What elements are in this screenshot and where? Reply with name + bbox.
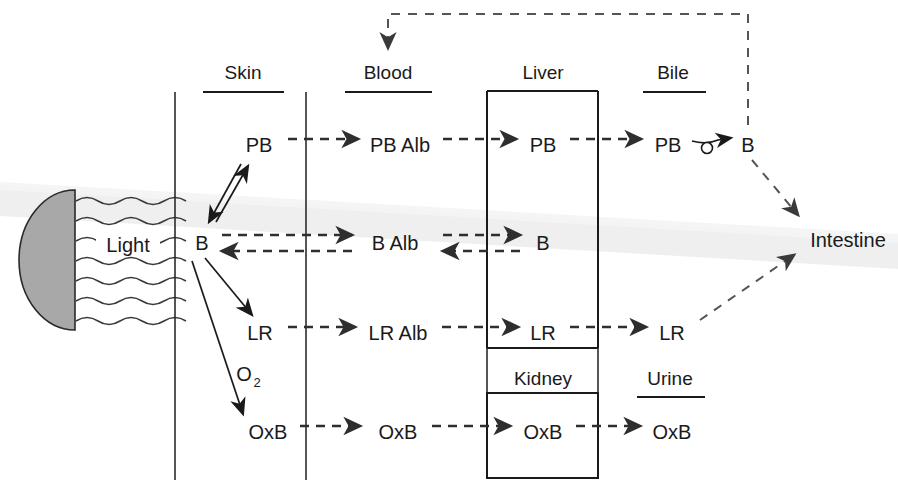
node-skin-o2-main: O [236,363,252,385]
node-blood-b-alb: B Alb [372,232,419,254]
compartment-header-urine: Urine [637,368,705,397]
compartment-label-urine: Urine [647,368,692,389]
node-skin-o2: O 2 [236,363,260,390]
node-bile-pb: PB [655,134,682,156]
compartment-label-bile: Bile [657,62,689,83]
node-skin-lr: LR [247,322,273,344]
edge-bile-lr-to-intestine [700,255,794,320]
edge-pb-to-b-reaction [692,138,731,154]
light-label-group: Light [96,230,160,256]
node-intestine: Intestine [810,229,886,251]
node-bile-lr: LR [659,322,685,344]
node-skin-pb: PB [246,134,273,156]
edge-bile-b-to-intestine [752,160,798,215]
node-liver-lr: LR [530,322,556,344]
node-skin-o2-subscript: 2 [253,375,260,390]
reaction-circle-icon [702,143,713,154]
node-blood-pb-alb: PB Alb [370,134,430,156]
compartment-header-liver: Liver [522,62,564,83]
compartment-label-liver: Liver [522,62,564,83]
node-bile-b: B [741,134,754,156]
edge-skin-b-to-lr [205,258,252,315]
node-kidney-oxb: OxB [524,421,563,443]
node-skin-b: B [195,232,208,254]
edge-enterohepatic-feedback [388,14,748,125]
compartment-label-blood: Blood [364,62,413,83]
edge-skin-b-to-oxb [192,261,243,414]
node-liver-b: B [536,232,549,254]
node-blood-oxb: OxB [379,421,418,443]
light-label: Light [106,234,150,256]
node-skin-oxb: OxB [249,421,288,443]
compartment-header-bile: Bile [643,62,706,92]
compartment-label-kidney: Kidney [514,368,573,389]
compartment-header-kidney: Kidney [514,368,573,389]
diagram-root: Light Skin Blood Liver B [0,0,898,485]
compartment-header-skin: Skin [203,62,284,92]
node-urine-oxb: OxB [653,421,692,443]
compartment-header-blood: Blood [345,62,432,92]
compartment-label-skin: Skin [225,62,262,83]
node-liver-pb: PB [530,134,557,156]
pathway-diagram-svg: Light Skin Blood Liver B [0,0,898,485]
node-blood-lr-alb: LR Alb [369,322,428,344]
